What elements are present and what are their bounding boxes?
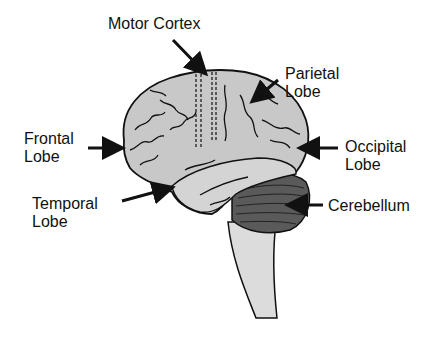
label-cerebellum: Cerebellum xyxy=(328,197,410,215)
label-temporal-lobe: Temporal Lobe xyxy=(32,195,98,231)
label-temporal-line1: Temporal xyxy=(32,195,98,213)
label-frontal-lobe: Frontal Lobe xyxy=(24,130,74,166)
label-parietal-line1: Parietal xyxy=(285,65,339,83)
motor-cortex-arrow xyxy=(173,40,204,72)
temporal-arrow xyxy=(122,188,170,201)
label-temporal-line2: Lobe xyxy=(32,213,98,231)
label-parietal-line2: Lobe xyxy=(285,83,339,101)
label-parietal-lobe: Parietal Lobe xyxy=(285,65,339,101)
label-motor-cortex: Motor Cortex xyxy=(108,15,200,33)
brainstem xyxy=(228,222,277,318)
label-frontal-line1: Frontal xyxy=(24,130,74,148)
label-occipital-line2: Lobe xyxy=(345,156,406,174)
label-occipital-line1: Occipital xyxy=(345,138,406,156)
label-frontal-line2: Lobe xyxy=(24,148,74,166)
label-occipital-lobe: Occipital Lobe xyxy=(345,138,406,174)
